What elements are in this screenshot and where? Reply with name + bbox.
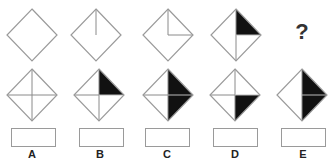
- answer-box-e[interactable]: [281, 128, 326, 147]
- question-mark: ?: [292, 20, 312, 44]
- option-figure-a[interactable]: [7, 69, 57, 121]
- option-label-d: D: [225, 148, 245, 160]
- option-figure-e[interactable]: [277, 69, 327, 121]
- sequence-figure-1: [7, 9, 57, 61]
- option-figure-d[interactable]: [210, 69, 260, 121]
- option-label-b: B: [90, 148, 110, 160]
- answer-box-c[interactable]: [145, 128, 190, 147]
- puzzle-canvas: ? A B C D E: [0, 0, 334, 163]
- diamond-outline: [7, 9, 57, 61]
- option-label-e: E: [293, 148, 313, 160]
- answer-box-d[interactable]: [213, 128, 258, 147]
- sequence-figure-2: [71, 9, 121, 61]
- sequence-figure-3: [143, 9, 193, 61]
- option-label-c: C: [157, 148, 177, 160]
- answer-box-b[interactable]: [79, 128, 124, 147]
- option-label-a: A: [22, 148, 42, 160]
- option-figure-c[interactable]: [143, 69, 193, 121]
- answer-box-a[interactable]: [11, 128, 56, 147]
- option-figure-b[interactable]: [74, 69, 124, 121]
- sequence-figure-4: [211, 9, 261, 61]
